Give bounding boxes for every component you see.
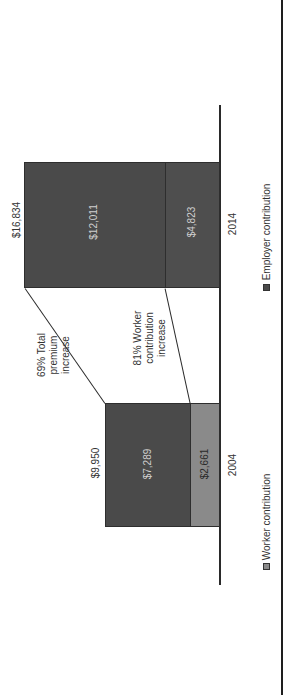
category-label-2014: 2014 [227, 213, 239, 235]
chart: $16,834 $12,011 $4,823 $9,950 $7,289 $2,… [0, 0, 290, 695]
worker-swatch-icon [263, 563, 270, 570]
total-label-2004: $9,950 [90, 448, 102, 479]
legend: Worker contribution Employer contributio… [255, 250, 275, 670]
legend-label-worker: Worker contribution [261, 474, 273, 561]
employer-label-2004: $7,289 [142, 449, 154, 480]
category-label-2004: 2004 [227, 454, 239, 476]
frame-border [281, 0, 283, 695]
legend-label-employer: Employer contribution [261, 184, 273, 281]
worker-label-2004: $2,661 [199, 449, 211, 480]
employer-swatch-icon [263, 284, 270, 291]
worker-label-2014: $4,823 [186, 207, 198, 238]
annotation-total-increase: 69% Total premium increase [36, 333, 72, 377]
connector-worker [164, 288, 190, 404]
total-label-2014: $16,834 [11, 202, 23, 238]
employer-label-2014: $12,011 [88, 204, 100, 239]
annotation-worker-increase: 81% Worker contribution increase [132, 311, 168, 366]
